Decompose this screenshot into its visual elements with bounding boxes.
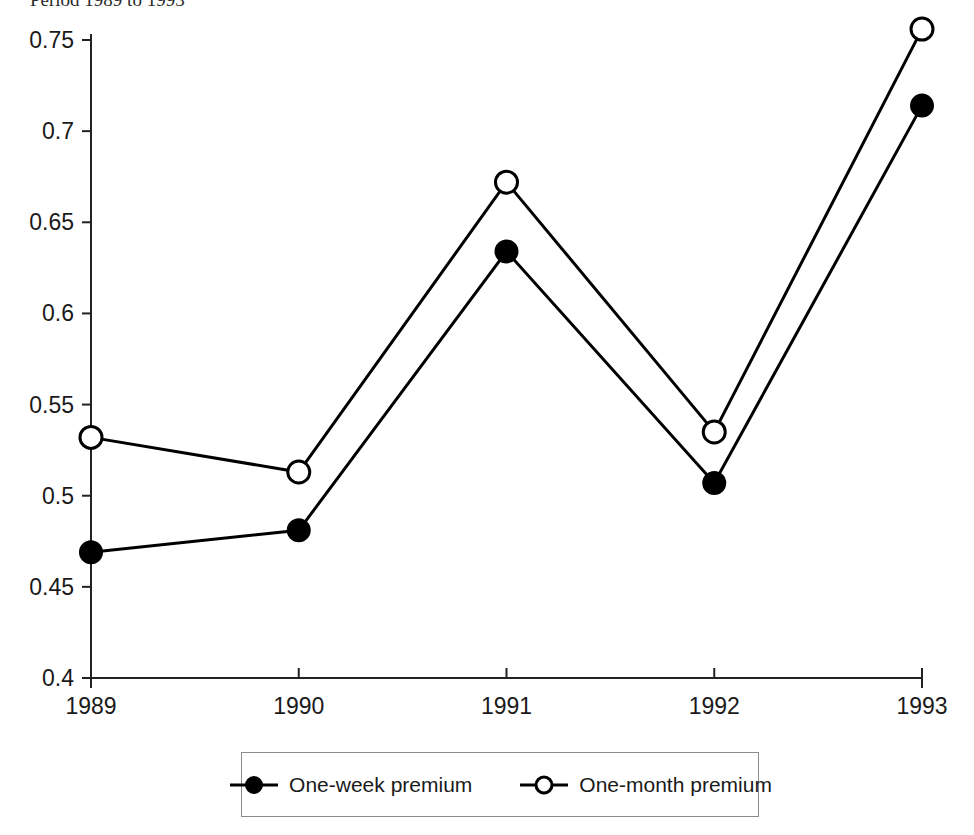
x-axis-tick-labels: 19891990199119921993 bbox=[65, 693, 947, 719]
x-tick-label: 1992 bbox=[689, 693, 740, 719]
filled-circle-marker bbox=[288, 519, 310, 541]
legend-entry-one-month: One-month premium bbox=[518, 773, 772, 797]
open-circle-marker bbox=[80, 426, 102, 448]
axis-spine bbox=[91, 34, 922, 678]
legend-label-one-month: One-month premium bbox=[579, 773, 772, 797]
filled-circle-marker bbox=[911, 95, 933, 117]
open-circle-icon bbox=[518, 775, 570, 795]
y-tick-label: 0.7 bbox=[42, 118, 74, 144]
y-axis-tick-labels: 0.40.450.50.550.60.650.70.75 bbox=[29, 27, 74, 691]
filled-circle-icon bbox=[228, 775, 280, 795]
filled-circle-marker bbox=[80, 541, 102, 563]
open-circle-marker bbox=[911, 18, 933, 40]
x-tick-label: 1993 bbox=[896, 693, 947, 719]
y-tick-label: 0.75 bbox=[29, 27, 74, 53]
filled-circle-marker bbox=[703, 472, 725, 494]
chart-series-markers bbox=[80, 18, 933, 563]
y-tick-label: 0.5 bbox=[42, 483, 74, 509]
filled-circle-marker bbox=[496, 240, 518, 262]
open-circle-marker bbox=[496, 171, 518, 193]
legend-label-one-week: One-week premium bbox=[289, 773, 472, 797]
open-circle-marker bbox=[703, 421, 725, 443]
x-tick-label: 1991 bbox=[481, 693, 532, 719]
y-tick-label: 0.6 bbox=[42, 300, 74, 326]
y-tick-label: 0.45 bbox=[29, 574, 74, 600]
y-tick-label: 0.55 bbox=[29, 392, 74, 418]
chart-axes bbox=[82, 34, 922, 688]
line-chart: 0.40.450.50.550.60.650.70.75 19891990199… bbox=[0, 0, 974, 735]
y-tick-label: 0.4 bbox=[42, 665, 74, 691]
x-tick-label: 1990 bbox=[273, 693, 324, 719]
legend-entry-one-week: One-week premium bbox=[228, 773, 472, 797]
y-tick-label: 0.65 bbox=[29, 209, 74, 235]
chart-series-lines bbox=[91, 29, 922, 552]
chart-legend: One-week premium One-month premium bbox=[241, 752, 759, 817]
chart-page: Period 1989 to 1993 0.40.450.50.550.60.6… bbox=[0, 0, 974, 835]
x-tick-label: 1989 bbox=[65, 693, 116, 719]
open-circle-marker bbox=[288, 461, 310, 483]
